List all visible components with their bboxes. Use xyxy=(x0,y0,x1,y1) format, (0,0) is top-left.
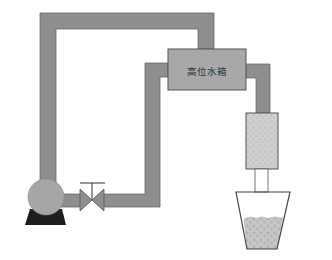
filter-column xyxy=(246,113,278,169)
valve-icon xyxy=(80,183,105,211)
pipe-pump-to-tank xyxy=(40,13,214,188)
beaker-sediment xyxy=(244,217,284,250)
pipe-tank-to-valve xyxy=(103,63,168,207)
pump xyxy=(28,179,64,215)
tank-label: 高位水箱 xyxy=(168,64,246,78)
process-diagram xyxy=(0,0,332,260)
filter-outlet-tube xyxy=(255,169,268,192)
pipe-tank-to-filter xyxy=(246,64,270,113)
